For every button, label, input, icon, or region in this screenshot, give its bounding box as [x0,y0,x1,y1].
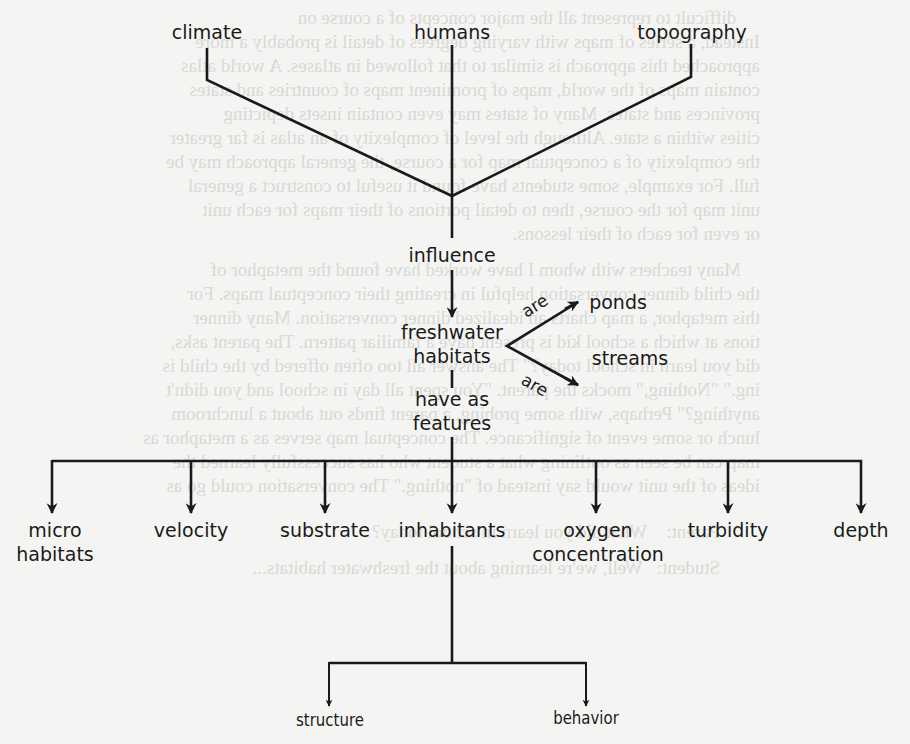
scanned-page: difficult to represent all the major con… [0,0,910,744]
node-influence: influence [408,243,495,267]
node-label: turbidity [688,518,769,542]
node-behavior: behavior [553,706,619,730]
node-have-as-features: have as features [413,387,492,435]
node-substrate: substrate [280,518,370,542]
node-turbidity: turbidity [688,518,769,542]
node-label: behavior [553,706,619,730]
node-topography: topography [637,20,747,44]
node-label: humans [414,20,490,44]
node-structure: structure [296,708,364,732]
node-label-line-1: freshwater [401,320,503,344]
node-streams: streams [592,346,668,370]
node-oxygen-concentration: oxygen concentration [532,518,664,566]
node-label: substrate [280,518,370,542]
node-label-line-1: have as [413,387,492,411]
node-label-line-2: habitats [401,344,503,368]
node-label-line-1: micro [16,518,93,542]
node-label-line-2: habitats [16,542,93,566]
node-label: structure [296,708,364,732]
node-label: climate [172,20,242,44]
node-label-line-2: concentration [532,542,664,566]
node-label-line-2: features [413,411,492,435]
node-climate: climate [172,20,242,44]
edge-topography-influence [452,44,691,196]
node-label: influence [408,243,495,267]
concept-map-connectors [0,0,910,744]
node-ponds: ponds [589,290,647,314]
edge-climate-influence [207,48,452,196]
node-label: streams [592,346,668,370]
node-label: inhabitants [399,518,506,542]
node-inhabitants: inhabitants [399,518,506,542]
node-micro-habitats: micro habitats [16,518,93,566]
node-humans: humans [414,20,490,44]
node-label: velocity [154,518,228,542]
node-depth: depth [833,518,888,542]
node-label-line-1: oxygen [532,518,664,542]
node-label: ponds [589,290,647,314]
node-label: depth [833,518,888,542]
edge-freshwater-ponds-streams [507,302,578,385]
node-velocity: velocity [154,518,228,542]
node-freshwater-habitats: freshwater habitats [401,320,503,368]
node-label: topography [637,20,747,44]
